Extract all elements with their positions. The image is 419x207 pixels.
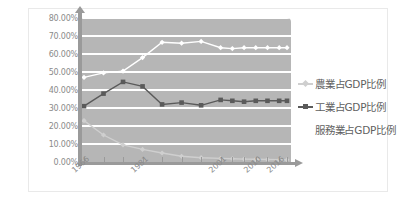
y-axis-tick-label: 50.00% bbox=[49, 68, 78, 77]
y-axis-tick-label: 10.00% bbox=[49, 140, 78, 149]
x-axis-tick bbox=[287, 157, 288, 163]
legend-item-services[interactable]: 服務業占GDP比例 bbox=[298, 118, 416, 141]
x-axis-tick bbox=[104, 157, 105, 163]
legend-label-services: 服務業占GDP比例 bbox=[315, 122, 396, 137]
data-point bbox=[242, 99, 247, 104]
x-axis-tick bbox=[244, 157, 245, 163]
y-axis-tick-label: 20.00% bbox=[49, 122, 78, 131]
data-point bbox=[101, 91, 106, 96]
x-axis-tick bbox=[232, 157, 233, 163]
series-layer bbox=[82, 18, 291, 162]
y-axis-tick-label: 30.00% bbox=[49, 104, 78, 113]
data-point bbox=[253, 45, 258, 50]
data-point bbox=[82, 75, 87, 80]
data-point bbox=[101, 70, 106, 75]
line-chart: 80.00%70.00%60.00%50.00%40.00%30.00%20.0… bbox=[0, 0, 419, 207]
plot-area bbox=[82, 18, 291, 162]
data-point bbox=[120, 142, 125, 147]
legend-item-industry[interactable]: 工業占GDP比例 bbox=[298, 95, 416, 118]
chart-legend: 農業占GDP比例 工業占GDP比例 服務業占GDP比例 bbox=[298, 72, 416, 141]
data-point bbox=[241, 45, 246, 50]
data-point bbox=[179, 100, 184, 105]
data-point bbox=[160, 102, 165, 107]
x-axis-tick bbox=[182, 157, 183, 163]
diamond-marker-icon bbox=[298, 79, 313, 89]
data-point bbox=[230, 46, 235, 51]
data-point bbox=[230, 99, 235, 104]
data-point bbox=[179, 41, 184, 46]
data-point bbox=[199, 103, 204, 108]
data-point bbox=[285, 99, 290, 104]
legend-label-industry: 工業占GDP比例 bbox=[315, 99, 386, 114]
x-axis-tick bbox=[267, 157, 268, 163]
data-point bbox=[265, 99, 270, 104]
x-axis-tick bbox=[123, 157, 124, 163]
data-point bbox=[265, 45, 270, 50]
data-point bbox=[140, 147, 145, 152]
data-point bbox=[199, 39, 204, 44]
y-axis-tick-label: 80.00% bbox=[49, 14, 78, 23]
data-point bbox=[218, 45, 223, 50]
legend-label-agriculture: 農業占GDP比例 bbox=[315, 76, 386, 91]
data-point bbox=[121, 80, 126, 85]
data-point bbox=[82, 104, 86, 109]
square-marker-icon bbox=[298, 102, 313, 112]
data-point bbox=[159, 150, 164, 155]
data-point bbox=[218, 98, 223, 103]
y-axis: 80.00%70.00%60.00%50.00%40.00%30.00%20.0… bbox=[30, 14, 78, 166]
data-point bbox=[277, 45, 282, 50]
y-axis-tick-label: 40.00% bbox=[49, 86, 78, 95]
x-axis-line bbox=[78, 162, 296, 165]
data-point bbox=[253, 99, 258, 104]
data-point bbox=[277, 99, 282, 104]
x-axis-tick bbox=[162, 157, 163, 163]
x-axis-tick bbox=[201, 157, 202, 163]
y-axis-line bbox=[78, 12, 82, 166]
legend-item-agriculture[interactable]: 農業占GDP比例 bbox=[298, 72, 416, 95]
data-point bbox=[284, 45, 289, 50]
data-point bbox=[140, 84, 145, 89]
y-axis-tick-label: 70.00% bbox=[49, 32, 78, 41]
y-axis-tick-label: 60.00% bbox=[49, 50, 78, 59]
